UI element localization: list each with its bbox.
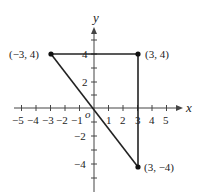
point-b (135, 51, 140, 56)
x-tick-label: −3 (42, 114, 54, 126)
x-tick-label: 1 (106, 114, 112, 126)
y-axis-arrow-icon (91, 27, 97, 34)
x-tick-label: −2 (56, 114, 68, 126)
coordinate-diagram: y x o −5 −4 −3 −2 −1 1 2 3 4 5 4 2 −2 −4… (0, 0, 203, 196)
x-tick-label: −5 (12, 114, 24, 126)
point-label: (3, −4) (144, 161, 174, 174)
y-tick-label: −2 (74, 130, 86, 142)
x-tick-label: 3 (135, 114, 141, 126)
x-tick-label: 5 (163, 114, 169, 126)
point-label: (−3, 4) (9, 48, 39, 61)
x-tick-label: −1 (71, 114, 83, 126)
x-tick-label: −4 (27, 114, 39, 126)
x-tick-label: 4 (149, 114, 155, 126)
y-tick-label: 4 (82, 48, 88, 60)
point-c (135, 164, 140, 169)
x-axis-arrow-icon (176, 105, 183, 111)
point-a (48, 51, 53, 56)
x-tick-label: 2 (120, 114, 126, 126)
y-axis-label: y (91, 10, 99, 25)
origin-label: o (85, 108, 91, 120)
y-tick-label: 2 (82, 76, 88, 88)
x-axis-label: x (185, 100, 192, 115)
y-tick-label: −4 (74, 158, 86, 170)
point-label: (3, 4) (145, 48, 169, 61)
